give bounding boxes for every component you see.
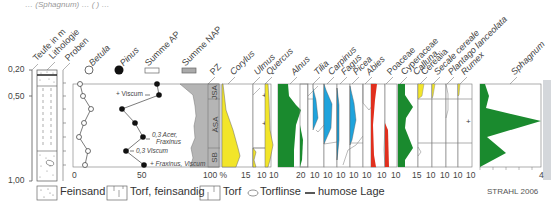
x-tick-calluna: 15 bbox=[412, 170, 421, 180]
x-tick-abies: 10 bbox=[362, 170, 371, 180]
depth-axis bbox=[29, 70, 32, 181]
poaceae-column bbox=[371, 84, 387, 167]
annotation-fraxinus-viscum: + Fraxinus, Viscum bbox=[150, 160, 205, 167]
fagus-column bbox=[337, 84, 350, 167]
right-edge-blur bbox=[543, 80, 551, 180]
annotation-viscum-03: 0,3 Viscum bbox=[136, 147, 168, 154]
x-tick-cyperaceae: 10 bbox=[391, 170, 400, 180]
legend-torf: Torf bbox=[223, 185, 241, 197]
x-tick-0: 0 bbox=[72, 170, 77, 180]
depth-tick-020: 0,20 bbox=[8, 64, 25, 74]
legend-humose-lage: humose Lage bbox=[318, 185, 385, 197]
zone-jsa: JSA bbox=[210, 85, 219, 100]
x-tick-tilia: 10 bbox=[310, 170, 319, 180]
x-tick-corylus: 15 bbox=[241, 170, 250, 180]
x-tick-100: 100 % bbox=[203, 170, 227, 180]
annotation-viscum: + Viscum bbox=[116, 90, 143, 97]
x-tick-ulmus: 10 bbox=[257, 170, 266, 180]
depth-tick-050: 0,50 bbox=[8, 91, 25, 101]
x-tick-picea: 10 bbox=[349, 170, 358, 180]
x-tick-sphagnum: 4 bbox=[539, 170, 544, 180]
legend-feinsand: Feinsand bbox=[60, 185, 105, 197]
x-tick-alnus: 20 bbox=[296, 170, 305, 180]
depth-tick-100: 1,00 bbox=[8, 175, 25, 185]
carpinus-column bbox=[324, 84, 337, 167]
credit: STRAHL 2006 bbox=[487, 187, 538, 196]
x-tick-plantago: 10 bbox=[453, 170, 462, 180]
legend-torflinse: Torflinse bbox=[260, 185, 301, 197]
samples-axis bbox=[63, 70, 66, 181]
corylus-column bbox=[222, 84, 253, 167]
svg-text:+: + bbox=[466, 117, 471, 126]
x-tick-50: 50 bbox=[137, 170, 146, 180]
legend-torf-feinsandig: Torf, feinsandig bbox=[130, 185, 205, 197]
cyperaceae-column bbox=[385, 84, 397, 167]
tilia-column bbox=[308, 84, 324, 167]
x-tick-secale: 10 bbox=[440, 170, 449, 180]
calluna-column bbox=[398, 84, 418, 167]
sphagnum-column bbox=[480, 84, 541, 170]
zone-sb: SB bbox=[210, 152, 219, 163]
header-symbols bbox=[85, 66, 196, 75]
lithology-column bbox=[37, 70, 57, 181]
quercus-column bbox=[278, 84, 308, 167]
annotation-fraxinus: Fraxinus bbox=[156, 138, 181, 145]
ulmus-yellow-column bbox=[265, 84, 273, 167]
x-tick-carpinus: 10 bbox=[323, 170, 332, 180]
cerealia-secale-plantago-rumex-columns bbox=[418, 84, 472, 167]
zone-asa: ÄSA bbox=[211, 116, 220, 132]
x-tick-rumex: 10 bbox=[466, 170, 475, 180]
x-tick-poaceae: 10 bbox=[377, 170, 386, 180]
x-tick-fagus: 10 bbox=[336, 170, 345, 180]
x-tick-quercus: 10 bbox=[269, 170, 278, 180]
annotation-acer: 0,3 Acer, bbox=[152, 131, 177, 138]
ap-nap-panel bbox=[73, 81, 219, 168]
x-tick-cerealia: 10 bbox=[426, 170, 435, 180]
